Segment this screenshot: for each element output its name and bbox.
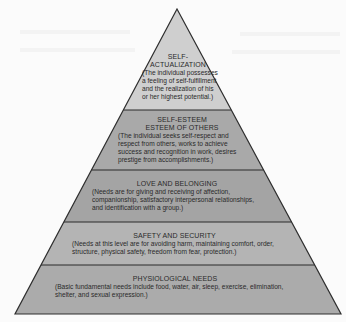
layer-title: LOVE AND BELONGING bbox=[92, 180, 262, 188]
layer-description: (The individual seeks self-respect and r… bbox=[112, 132, 252, 164]
layer-description: (Needs at this level are for avoiding ha… bbox=[72, 240, 277, 256]
safety-security-text: SAFETY AND SECURITY (Needs at this level… bbox=[72, 232, 277, 256]
layer-description: (Needs are for giving and receiving of a… bbox=[92, 188, 262, 212]
layer-title: ACTUALIZATION bbox=[138, 61, 218, 69]
layer-title: SELF-ESTEEM bbox=[112, 116, 252, 124]
physiological-text: PHYSIOLOGICAL NEEDS (Basic fundamental n… bbox=[55, 275, 295, 299]
layer-title: SELF- bbox=[138, 53, 218, 61]
love-belonging-text: LOVE AND BELONGING (Needs are for giving… bbox=[92, 180, 262, 212]
layer-description: (Basic fundamental needs include food, w… bbox=[55, 283, 295, 299]
self-actualization-text: SELF- ACTUALIZATION (The individual poss… bbox=[138, 53, 218, 101]
layer-title: PHYSIOLOGICAL NEEDS bbox=[55, 275, 295, 283]
layer-description: (The individual possesses a feeling of s… bbox=[138, 69, 218, 101]
layer-title: SAFETY AND SECURITY bbox=[72, 232, 277, 240]
self-esteem-text: SELF-ESTEEM ESTEEM OF OTHERS (The indivi… bbox=[112, 116, 252, 164]
layer-title: ESTEEM OF OTHERS bbox=[112, 124, 252, 132]
